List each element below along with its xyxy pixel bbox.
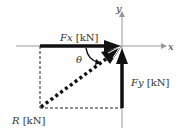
x-axis-label: x <box>168 41 174 52</box>
theta-label: θ <box>76 54 82 65</box>
fy-vector-arrow <box>116 48 128 108</box>
fy-label: Fy [kN] <box>130 77 169 88</box>
fx-label: Fx [kN] <box>59 32 98 43</box>
r-label: R [kN] <box>11 115 45 126</box>
y-axis-label: y <box>115 3 122 14</box>
force-diagram: Fx [kN] Fy [kN] R [kN] θ x y <box>0 0 184 136</box>
